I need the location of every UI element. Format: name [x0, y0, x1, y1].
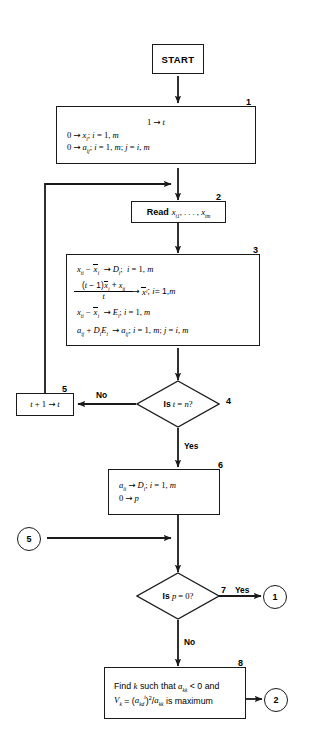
connector-in-5[interactable]: 5	[17, 527, 41, 551]
node-start: START	[152, 44, 204, 74]
box6-line-2: 0→p	[119, 492, 139, 505]
node-box-2: Read xt1, . . . , xtm	[131, 201, 226, 223]
box2-keyword: Read	[147, 207, 169, 217]
edge-label-yes-2: Yes	[234, 585, 250, 595]
decision-4-label: Is t = n?	[164, 399, 193, 409]
box3-fraction-numerator: (t − 1)xi + xti	[78, 281, 129, 291]
node-decision-7: Is p = 0?	[136, 572, 220, 620]
box5-line-1: t + 1→t	[30, 398, 59, 411]
edge-label-no-1: No	[95, 390, 108, 400]
box1-line-3: 0→aij; i = 1, m; j = i, m	[67, 141, 150, 154]
box3-line-4: aij + DiEi →aij; i = 1, m; j = i, m	[77, 324, 188, 337]
decision-7-label: Is p = 0?	[163, 591, 194, 601]
box8-line-1: Find k such that akk < 0 and	[114, 681, 219, 691]
box1-line-2: 0→xi; i = 1, m	[67, 129, 119, 142]
box3-line-2: (t − 1)xi + xti t →xi; i = 1, m	[77, 281, 175, 302]
box1-line-1: 1→t	[147, 116, 165, 129]
box8-line-2: Vk = (akdt)2/akk is maximum	[114, 695, 213, 706]
step-number-4: 4	[226, 396, 231, 406]
node-box-6: aii→Di; i = 1, m 0→p	[108, 469, 220, 515]
node-box-1: 1→t 0→xi; i = 1, m 0→aij; i = 1, m; j = …	[56, 106, 256, 164]
step-number-7: 7	[221, 585, 226, 595]
node-start-label: START	[162, 54, 195, 65]
box3-line-3: xti − xi →Ei; i = 1, m	[77, 306, 150, 319]
connector-out-2[interactable]: 2	[264, 688, 288, 712]
node-box-5: t + 1→t	[16, 393, 74, 416]
flowchart-canvas: START 1 1→t 0→xi; i = 1, m 0→aij; i = 1,…	[0, 0, 315, 746]
connector-out-1[interactable]: 1	[263, 585, 287, 609]
edge-label-yes-1: Yes	[183, 441, 199, 451]
box3-line-1: xti − xi →Di; i = 1, m	[77, 263, 153, 276]
node-decision-4: Is t = n?	[136, 380, 220, 428]
box6-line-1: aii→Di; i = 1, m	[119, 479, 176, 492]
node-box-8: Find k such that akk < 0 and Vk = (akdt)…	[104, 667, 246, 719]
edge-label-no-2: No	[183, 637, 196, 647]
box2-expr: xt1, . . . , xtm	[172, 206, 211, 219]
box3-fraction: (t − 1)xi + xti t	[78, 281, 129, 302]
node-box-3: xti − xi →Di; i = 1, m (t − 1)xi + xti t…	[66, 254, 260, 346]
box3-fraction-denominator: t	[74, 291, 133, 302]
